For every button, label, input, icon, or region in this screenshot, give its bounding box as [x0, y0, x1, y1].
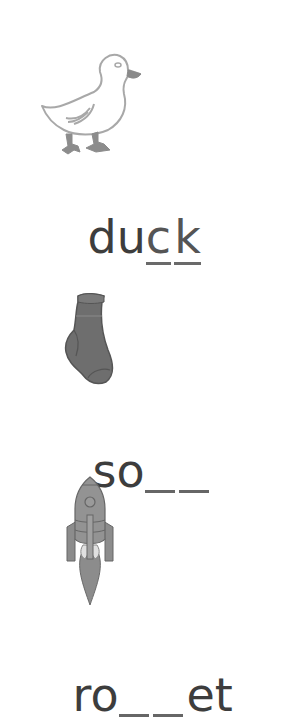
rocket-icon [65, 475, 115, 607]
word-rocket: roet [14, 626, 233, 721]
answer-blank-2[interactable] [153, 714, 183, 717]
word-suffix: et [187, 672, 233, 718]
word-prefix: ro [73, 672, 119, 718]
answer-blank-1[interactable] [119, 714, 149, 717]
worksheet-item-sock: so [0, 240, 297, 460]
worksheet-item-rocket: roet [0, 460, 297, 709]
duck-icon [38, 50, 143, 160]
worksheet-item-duck: duck [0, 0, 297, 240]
sock-icon [64, 290, 116, 386]
